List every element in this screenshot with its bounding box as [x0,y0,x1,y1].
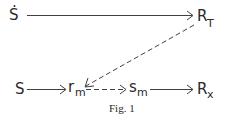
edge-r-t-to-r-m [85,25,194,87]
node-s-m: s m [129,78,148,99]
node-subscript: m [137,86,148,99]
edge-s-dot-to-r-t [27,11,193,20]
node-subscript: m [75,86,86,99]
node-label: S [9,6,19,24]
node-label: R [197,7,207,25]
node-r-x: R x [197,80,214,101]
node-label: S [15,80,25,98]
node-r-m: r m [68,78,86,99]
node-r-t: R T [197,7,214,30]
edge-s-to-r-m [27,85,66,94]
node-label: R [197,80,207,98]
dot-accent [14,5,16,7]
figure-caption: Fig. 1 [109,102,135,114]
figure-diagram: S R T S r m s m R x Fig. 1 [0,0,225,128]
node-s-dot: S [9,5,19,24]
node-label: r [68,78,75,96]
node-s: S [15,80,25,98]
node-subscript: T [206,17,214,30]
node-subscript: x [207,88,214,101]
edge-s-m-to-r-x [150,85,193,94]
node-label: s [129,78,137,96]
